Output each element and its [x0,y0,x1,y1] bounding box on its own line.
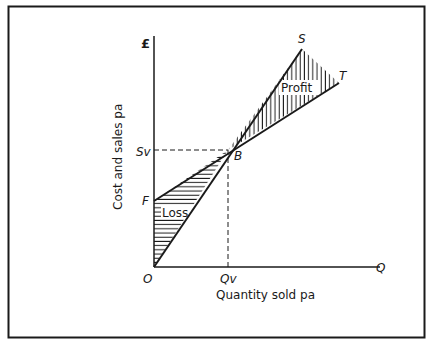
cost-end-label: T [339,69,348,83]
q-axis-end-label: Q [376,261,385,275]
origin-label: O [143,272,152,286]
sv-label: Sv [136,145,152,159]
total-cost-line [154,83,339,201]
break-even-label: B [234,149,242,163]
pound-symbol: £ [141,36,150,51]
break-even-diagram: £ Cost and sales pa Quantity sold pa Q O… [0,0,432,349]
fixed-cost-label: F [142,194,150,208]
qv-label: Qv [220,272,237,286]
x-axis-label: Quantity sold pa [216,288,315,302]
y-axis-label: Cost and sales pa [111,104,125,210]
loss-label: Loss [162,206,188,220]
sales-end-label: S [298,32,306,46]
profit-label: Profit [281,81,313,95]
